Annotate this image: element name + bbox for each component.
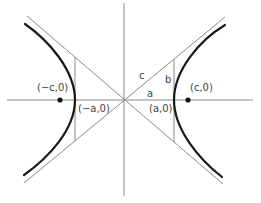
diagram-canvas xyxy=(0,0,261,203)
label-side-a: a xyxy=(147,89,153,99)
label-neg-vertex: (−a,0) xyxy=(78,104,110,114)
label-neg-focus: (−c,0) xyxy=(37,83,68,93)
label-side-b: b xyxy=(165,75,171,85)
right-focus-point xyxy=(185,97,190,102)
label-pos-focus: (c,0) xyxy=(190,83,213,93)
hyperbola-right-branch xyxy=(174,25,225,177)
label-pos-vertex: (a,0) xyxy=(149,104,172,114)
hyperbola-diagram: (−c,0) (−a,0) c b a (a,0) (c,0) xyxy=(0,0,261,203)
left-focus-point xyxy=(57,97,62,102)
label-side-c: c xyxy=(139,71,145,81)
